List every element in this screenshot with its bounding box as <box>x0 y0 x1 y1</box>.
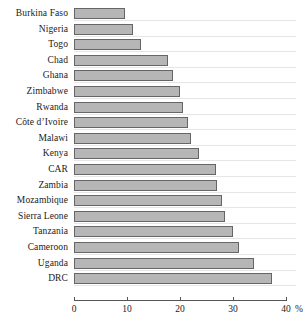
x-axis-unit-label: % <box>295 304 303 314</box>
category-label: Burkina Faso <box>0 6 68 21</box>
x-axis-tick <box>74 297 75 301</box>
category-label: Rwanda <box>0 100 68 115</box>
bar <box>74 211 225 222</box>
category-label: Malawi <box>0 131 68 146</box>
bar-row: Burkina Faso <box>0 6 305 21</box>
bar <box>74 8 125 19</box>
bar <box>74 86 180 97</box>
category-label: Uganda <box>0 256 68 271</box>
category-label: Mozambique <box>0 193 68 208</box>
category-label: CAR <box>0 162 68 177</box>
bar <box>74 195 222 206</box>
category-label: Zambia <box>0 178 68 193</box>
category-label: Sierra Leone <box>0 209 68 224</box>
bar-row: Togo <box>0 37 305 52</box>
bar <box>74 148 199 159</box>
bar <box>74 70 173 81</box>
bar-row: Nigeria <box>0 22 305 37</box>
bar-row: Mozambique <box>0 193 305 208</box>
bar-row: Tanzania <box>0 224 305 239</box>
bar-row: Malawi <box>0 131 305 146</box>
bar <box>74 117 188 128</box>
bar-row: Kenya <box>0 146 305 161</box>
bar-row: Zimbabwe <box>0 84 305 99</box>
category-label: Ghana <box>0 68 68 83</box>
category-label: Kenya <box>0 146 68 161</box>
bar-chart: Burkina FasoNigeriaTogoChadGhanaZimbabwe… <box>0 0 305 327</box>
bar <box>74 164 216 175</box>
bar-row: DRC <box>0 271 305 286</box>
category-label: Côte d’Ivoire <box>0 115 68 130</box>
bar <box>74 55 168 66</box>
category-label: Chad <box>0 53 68 68</box>
bar-row: Chad <box>0 53 305 68</box>
x-axis-tick <box>286 297 287 301</box>
bar <box>74 133 191 144</box>
category-label: DRC <box>0 271 68 286</box>
bar <box>74 24 133 35</box>
bar-row: Zambia <box>0 178 305 193</box>
bar-row: Sierra Leone <box>0 209 305 224</box>
bar-row: Cameroon <box>0 240 305 255</box>
bar <box>74 273 272 284</box>
bar <box>74 242 239 253</box>
x-axis-tick-label: 10 <box>112 304 142 314</box>
category-label: Togo <box>0 37 68 52</box>
category-label: Tanzania <box>0 224 68 239</box>
x-axis-tick <box>180 297 181 301</box>
x-axis-tick-label: 20 <box>165 304 195 314</box>
x-axis-tick <box>127 297 128 301</box>
x-axis-tick-label: 0 <box>59 304 89 314</box>
bar-row: Côte d’Ivoire <box>0 115 305 130</box>
category-label: Nigeria <box>0 22 68 37</box>
category-label: Cameroon <box>0 240 68 255</box>
bar-row: CAR <box>0 162 305 177</box>
bar <box>74 102 183 113</box>
bar <box>74 226 233 237</box>
bar <box>74 39 141 50</box>
x-axis-tick-label: 30 <box>218 304 248 314</box>
bar-row: Uganda <box>0 256 305 271</box>
bar-row: Ghana <box>0 68 305 83</box>
bar <box>74 180 217 191</box>
category-label: Zimbabwe <box>0 84 68 99</box>
plot-area: Burkina FasoNigeriaTogoChadGhanaZimbabwe… <box>0 0 305 327</box>
x-axis-tick <box>233 297 234 301</box>
bar <box>74 258 254 269</box>
bar-row: Rwanda <box>0 100 305 115</box>
